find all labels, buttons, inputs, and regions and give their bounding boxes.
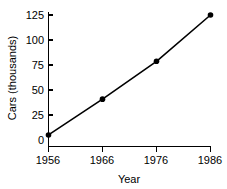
x-tick-label-1966: 1966 — [90, 154, 114, 166]
data-point-1966 — [100, 96, 106, 102]
series-markers — [46, 12, 214, 138]
data-point-1986 — [208, 12, 214, 18]
series-line-cars — [49, 15, 211, 135]
x-tick-label-1956: 1956 — [36, 154, 60, 166]
y-tick-label-50: 50 — [32, 84, 44, 96]
y-tick-label-25: 25 — [32, 109, 44, 121]
y-tick-label-75: 75 — [32, 59, 44, 71]
y-tick-label-125: 125 — [26, 9, 44, 21]
data-point-1976 — [154, 58, 160, 64]
line-chart: Cars (thousands) 125 100 75 50 25 0 1956… — [0, 0, 227, 189]
x-axis-title: Year — [118, 173, 141, 185]
y-tick-label-100: 100 — [26, 34, 44, 46]
data-point-1956 — [46, 132, 52, 138]
y-axis-title: Cars (thousands) — [6, 36, 18, 120]
x-tick-label-1986: 1986 — [198, 154, 222, 166]
x-tick-label-1976: 1976 — [144, 154, 168, 166]
chart-figure: Cars (thousands) 125 100 75 50 25 0 1956… — [0, 0, 227, 189]
y-tick-label-0: 0 — [38, 134, 44, 146]
